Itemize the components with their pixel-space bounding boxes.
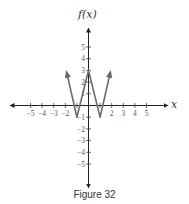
y-tick-label: −2 xyxy=(77,125,85,134)
x-tick-label: 4 xyxy=(133,109,137,118)
x-tick-label: −2 xyxy=(61,109,69,118)
y-axis-label: f(x) xyxy=(77,8,97,21)
y-tick-label: 5 xyxy=(81,43,85,52)
graph-plot: −5−4−3−2234554321−1−2−3−4−5 x f(x) xyxy=(0,0,189,190)
x-tick-label: 5 xyxy=(145,109,149,118)
y-tick-label: −5 xyxy=(77,160,85,169)
figure-caption: Figure 32 xyxy=(0,189,189,200)
y-tick-label: 3 xyxy=(81,66,85,75)
x-tick-label: −3 xyxy=(50,109,58,118)
x-tick-label: −5 xyxy=(27,109,35,118)
y-tick-label: −3 xyxy=(77,136,85,145)
x-tick-label: −4 xyxy=(38,109,46,118)
axes: −5−4−3−2234554321−1−2−3−4−5 xyxy=(12,30,166,186)
x-axis-label: x xyxy=(171,98,178,111)
x-tick-label: 3 xyxy=(121,109,125,118)
x-tick-label: 2 xyxy=(110,109,114,118)
y-tick-label: −4 xyxy=(77,148,85,157)
y-tick-label: 4 xyxy=(81,54,85,63)
